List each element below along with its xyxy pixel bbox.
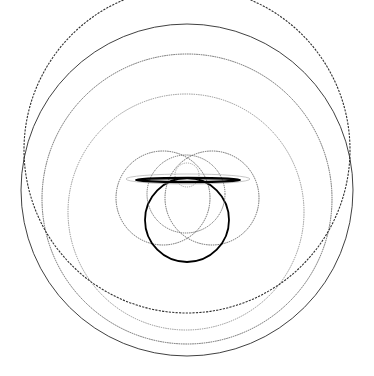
figure-canvas [0, 0, 374, 376]
figure-background [0, 0, 374, 376]
geometric-figure [0, 0, 374, 376]
